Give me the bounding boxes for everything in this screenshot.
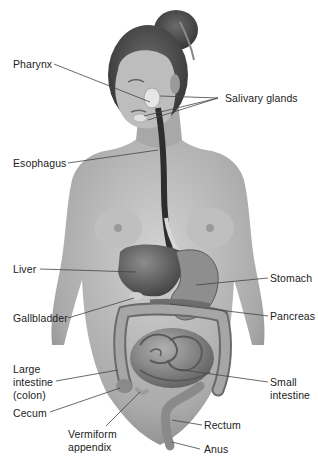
- label-cecum: Cecum: [13, 407, 47, 419]
- cecum-shape: [116, 379, 132, 393]
- label-liver: Liver: [13, 263, 36, 275]
- label-rectum: Rectum: [204, 419, 241, 431]
- label-large-intestine-line2: intestine: [13, 376, 53, 388]
- label-pancreas: Pancreas: [270, 310, 315, 322]
- label-appendix-line2: appendix: [68, 441, 111, 453]
- label-stomach: Stomach: [270, 272, 312, 284]
- label-small-intestine-line2: intestine: [270, 389, 310, 401]
- label-small-intestine-line1: Small: [270, 376, 297, 388]
- label-salivary-glands: Salivary glands: [225, 92, 298, 104]
- digestive-system-diagram: Pharynx Salivary glands Esophagus Liver …: [0, 0, 318, 460]
- label-pharynx: Pharynx: [13, 58, 52, 70]
- label-large-intestine-line1: Large: [13, 363, 40, 375]
- label-appendix-line1: Vermiform: [68, 428, 117, 440]
- label-gallbladder: Gallbladder: [13, 312, 68, 324]
- label-large-intestine-line3: (colon): [13, 389, 46, 401]
- label-anus: Anus: [204, 443, 228, 455]
- head: [108, 10, 198, 128]
- small-intestine-shape: [130, 328, 214, 388]
- label-esophagus: Esophagus: [13, 157, 66, 169]
